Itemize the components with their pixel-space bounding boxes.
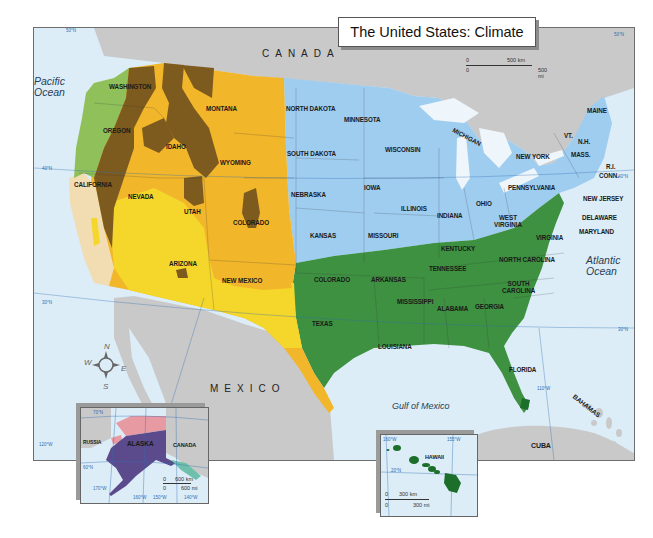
state-label-tennessee: TENNESSEE [429, 266, 466, 272]
state-label-alabama: ALABAMA [437, 306, 468, 312]
mexico-label: MEXICO [210, 383, 285, 394]
state-label-illinois: ILLINOIS [401, 206, 427, 212]
state-label-louisiana: LOUISIANA [378, 344, 412, 350]
lon-110-label: 110°W [537, 386, 550, 391]
state-label-idaho: IDAHO [166, 144, 186, 150]
state-label-south-dakota: SOUTH DAKOTA [287, 151, 336, 157]
hawaii-lon-155: 155°W [447, 437, 461, 442]
inset-lat-60: 60°N [83, 465, 93, 470]
state-label-mass: MASS. [571, 152, 590, 158]
lat-30-label: 30°N [42, 300, 52, 305]
state-label-pennsylvania: PENNSYLVANIA [508, 185, 555, 191]
state-label-oklahoma-area: COLORADO [314, 277, 350, 283]
state-label-maryland: MARYLAND [579, 229, 614, 235]
state-label-west-virginia: WESTVIRGINIA [494, 214, 522, 228]
alaska-inset: 70°N 60°N RUSSIA ALASKA CANADA 170°W 160… [80, 407, 209, 504]
lat-50-label: 50°N [66, 28, 76, 33]
state-label-minnesota: MINNESOTA [344, 117, 380, 123]
hawaii-lon-160: 160°W [383, 437, 397, 442]
state-label-kansas: KANSAS [310, 233, 336, 239]
lon-120-label: 120°W [39, 442, 53, 447]
scale-km-label: 500 km [507, 57, 525, 63]
canada-label: CANADA [262, 48, 340, 59]
state-label-maine: MAINE [587, 108, 607, 114]
state-label-washington: WASHINGTON [109, 84, 151, 90]
state-label-wyoming: WYOMING [220, 160, 251, 166]
lat-30-right-label: 30°N [618, 327, 628, 332]
hawaii-label: HAWAII [425, 455, 444, 461]
state-label-nebraska: NEBRASKA [291, 192, 326, 198]
inset-russia-label: RUSSIA [83, 440, 101, 445]
hawaii-inset: 160°W 155°W 20°N HAWAII 0 300 km 0 300 m… [380, 434, 478, 517]
main-scale-bar: 0 500 km 0 500 mi [462, 57, 552, 77]
state-label-colorado: COLORADO [233, 220, 269, 226]
scale-km-zero: 0 [466, 57, 469, 63]
pacific-ocean-label: PacificOcean [34, 76, 65, 98]
state-label-north-carolina: NORTH CAROLINA [499, 257, 555, 263]
state-label-new-jersey: NEW JERSEY [583, 196, 623, 202]
state-label-nh: N.H. [578, 139, 590, 145]
state-label-north-dakota: NORTH DAKOTA [286, 106, 335, 112]
state-label-delaware: DELAWARE [582, 215, 617, 221]
lat-50-right-label: 50°N [614, 32, 624, 37]
scale-mi-label: 500 mi [538, 67, 552, 79]
state-label-vt: VT. [564, 133, 573, 139]
us-climate-map: PacificOcean AtlanticOcean Gulf of Mexic… [33, 27, 635, 461]
inset-lon-160: 160°W [133, 495, 147, 500]
state-label-conn: CONN. [599, 173, 619, 179]
inset-lon-140: 140°W [184, 495, 198, 500]
state-label-iowa: IOWA [364, 185, 380, 191]
alaska-scale-bar: 0 600 km 0 600 mi [163, 476, 203, 494]
state-label-new-york: NEW YORK [516, 154, 550, 160]
inset-lon-150: 150°W [153, 495, 167, 500]
lat-40-label: 40°N [42, 166, 52, 171]
state-label-indiana: INDIANA [437, 213, 463, 219]
state-label-georgia: GEORGIA [475, 304, 504, 310]
state-label-kentucky: KENTUCKY [441, 246, 475, 252]
svg-text:N: N [104, 342, 110, 351]
atlantic-ocean-label: AtlanticOcean [586, 255, 620, 277]
inset-lat-70: 70°N [93, 410, 103, 415]
state-label-mississippi: MISSISSIPPI [397, 299, 433, 305]
state-label-ri: R.I. [606, 164, 615, 170]
map-canvas [34, 28, 634, 460]
inset-alaska-label: ALASKA [127, 441, 153, 448]
state-label-south-carolina: SOUTHCAROLINA [502, 280, 535, 294]
inset-lon-170: 170°W [93, 486, 107, 491]
state-label-arizona: ARIZONA [169, 261, 197, 267]
state-label-missouri: MISSOURI [368, 233, 398, 239]
state-label-florida: FLORIDA [509, 367, 536, 373]
state-label-oregon: OREGON [103, 128, 130, 134]
svg-text:S: S [103, 382, 109, 390]
map-title: The United States: Climate [338, 17, 536, 47]
hawaii-scale-bar: 0 300 km 0 300 mi [383, 491, 443, 511]
hawaii-lat-20: 20°N [391, 468, 401, 473]
scale-mi-zero: 0 [466, 67, 469, 73]
state-label-nevada: NEVADA [128, 194, 154, 200]
svg-text:E: E [121, 364, 127, 373]
state-label-arkansas: ARKANSAS [371, 277, 406, 283]
state-label-texas: TEXAS [312, 321, 333, 327]
compass-rose-icon: N S W E [84, 340, 128, 390]
state-label-california: CALIFORNIA [74, 182, 112, 188]
svg-text:W: W [84, 358, 93, 367]
state-label-wisconsin: WISCONSIN [385, 147, 420, 153]
lat-40-right-label: 40°N [618, 174, 628, 179]
state-label-utah: UTAH [184, 209, 201, 215]
state-label-ohio: OHIO [476, 201, 492, 207]
inset-canada-label: CANADA [173, 443, 196, 449]
cuba-label: CUBA [531, 442, 551, 449]
state-label-montana: MONTANA [206, 106, 237, 112]
gulf-of-mexico-label: Gulf of Mexico [392, 401, 450, 412]
state-label-new-mexico: NEW MEXICO [222, 278, 262, 284]
state-label-virginia: VIRGINIA [536, 235, 563, 241]
